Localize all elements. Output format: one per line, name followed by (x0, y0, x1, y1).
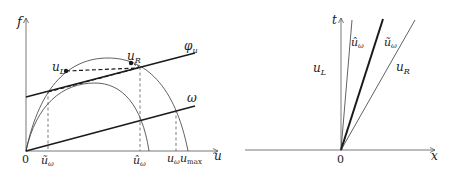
origin-label-right: 0 (337, 153, 344, 166)
f-axis-label: f (16, 14, 24, 29)
tick-u-tilde-omega: ũω (41, 154, 54, 168)
flux-plot: f u 0 φu ω uL uR ũω ûω uω umax (16, 14, 222, 168)
outer-flux-curve (26, 58, 188, 151)
uL-label: uL (52, 60, 65, 76)
region-u-tilde-omega: ũω (384, 36, 397, 50)
tick-u-hat-omega: ûω (133, 154, 146, 168)
tick-u-max: umax (180, 152, 202, 166)
wave-fan-plot: t x 0 uL ûω ũω uR (245, 13, 438, 166)
tick-u-omega: uω (167, 152, 180, 166)
region-u-L: uL (313, 61, 326, 77)
inner-flux-curve (26, 83, 149, 151)
origin-label-left: 0 (22, 153, 29, 166)
omega-label: ω (187, 91, 197, 105)
riemann-diagram: f u 0 φu ω uL uR ũω ûω uω umax t (0, 0, 456, 172)
phi-u-label: φu (184, 39, 198, 55)
u-axis-label: u (214, 149, 222, 163)
omega-line (26, 106, 195, 151)
x-axis-label: x (431, 149, 438, 163)
t-axis-label: t (332, 13, 337, 27)
uR-label: uR (127, 49, 141, 65)
region-u-R: uR (396, 60, 410, 76)
wave-contact (341, 19, 383, 150)
region-u-hat-omega: ûω (351, 36, 364, 50)
